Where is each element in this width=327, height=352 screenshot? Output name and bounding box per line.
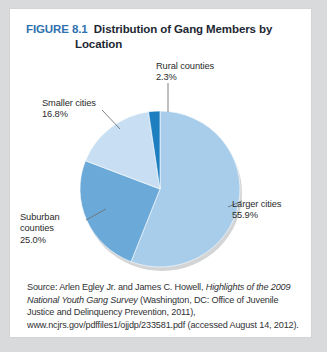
- pie-label-smaller-cities: Smaller cities 16.8%: [42, 98, 96, 121]
- source-prefix: Source: Arlen Egley Jr. and James C. How…: [27, 282, 206, 292]
- figure-card: FIGURE 8.1 Distribution of Gang Members …: [9, 8, 312, 338]
- pie-label-suburban-counties: Suburban counties 25.0%: [20, 212, 60, 246]
- figure-number: FIGURE 8.1: [26, 23, 88, 35]
- pie-chart: Rural counties 2.3% Smaller cities 16.8%…: [10, 57, 311, 272]
- source-citation: Source: Arlen Egley Jr. and James C. How…: [27, 281, 299, 331]
- figure-title-line1: Distribution of Gang Members by: [94, 23, 272, 35]
- figure-title-line2: Location: [75, 37, 301, 52]
- leader-line-smaller: [102, 110, 120, 129]
- pie-label-rural-counties: Rural counties 2.3%: [156, 61, 214, 84]
- pie-label-larger-cities: Larger cities 55.9%: [232, 199, 281, 222]
- figure-title: FIGURE 8.1 Distribution of Gang Members …: [26, 22, 301, 52]
- pie-slices: [80, 111, 240, 267]
